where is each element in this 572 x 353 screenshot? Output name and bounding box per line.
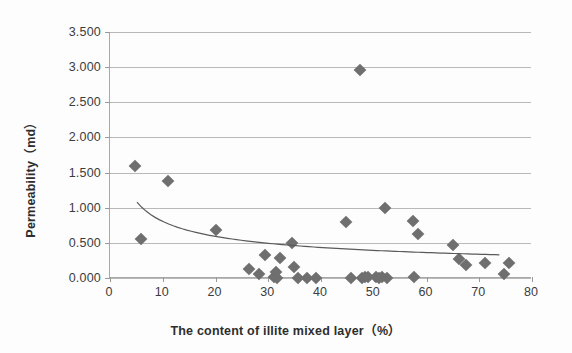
gridline-horizontal <box>110 137 531 138</box>
y-axis-tick <box>105 32 110 33</box>
data-point-marker <box>210 223 223 236</box>
plot-area <box>109 32 531 278</box>
gridline-horizontal <box>110 67 531 68</box>
x-axis-tick-label: 40 <box>313 285 327 299</box>
y-axis-tick <box>105 208 110 209</box>
gridline-horizontal <box>110 243 531 244</box>
data-point-marker <box>340 215 353 228</box>
gridline-horizontal <box>110 173 531 174</box>
x-axis-tick-label: 70 <box>471 285 485 299</box>
x-axis-tick <box>532 277 533 282</box>
data-point-marker <box>286 236 299 249</box>
data-point-marker <box>406 215 419 228</box>
y-axis-tick <box>105 243 110 244</box>
data-point-marker <box>129 159 142 172</box>
x-axis-tick <box>110 277 111 282</box>
data-point-marker <box>411 227 424 240</box>
scatter-chart: Permeability（md） 0.0000.5001.0001.5002.0… <box>0 0 572 353</box>
x-axis-tick-label: 30 <box>260 285 274 299</box>
x-axis-tick-label: 60 <box>419 285 433 299</box>
data-point-marker <box>162 175 175 188</box>
data-point-marker <box>447 239 460 252</box>
data-point-marker <box>258 248 271 261</box>
x-axis-tick <box>479 277 480 282</box>
x-axis-tick <box>163 277 164 282</box>
data-point-marker <box>274 252 287 265</box>
x-axis-tick <box>216 277 217 282</box>
data-point-marker <box>354 64 367 77</box>
data-point-marker <box>478 256 491 269</box>
x-axis-tick-label: 20 <box>208 285 222 299</box>
gridline-horizontal <box>110 208 531 209</box>
x-axis-tick-label: 0 <box>106 285 113 299</box>
x-axis-tick-label: 50 <box>366 285 380 299</box>
x-axis-title: The content of illite mixed layer（%） <box>0 320 572 339</box>
x-axis-tick-label: 10 <box>155 285 169 299</box>
y-axis-tick <box>105 102 110 103</box>
y-axis-tick <box>105 67 110 68</box>
y-axis-tick <box>105 137 110 138</box>
gridline-horizontal <box>110 102 531 103</box>
gridline-horizontal <box>110 32 531 33</box>
data-point-marker <box>379 201 392 214</box>
y-axis-tick <box>105 173 110 174</box>
x-axis-tick <box>427 277 428 282</box>
x-axis-tick-label: 80 <box>524 285 538 299</box>
